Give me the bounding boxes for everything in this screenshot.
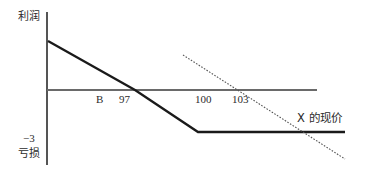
x-tick-label-b: B bbox=[96, 94, 103, 105]
chart-plot-area bbox=[0, 0, 367, 171]
y-tick-label-minus3: −3 bbox=[23, 133, 35, 144]
series-reference-dotted bbox=[183, 55, 345, 159]
chart-figure: 利润 −3 亏损 B 97 100 103 X 的现价 bbox=[0, 0, 367, 171]
y-axis-title-profit: 利润 bbox=[18, 11, 40, 22]
y-axis-title-loss: 亏损 bbox=[18, 148, 40, 159]
x-tick-label-97: 97 bbox=[119, 94, 130, 105]
x-axis-title-current-price: X 的现价 bbox=[297, 113, 342, 125]
x-tick-label-100: 100 bbox=[195, 94, 212, 105]
x-tick-label-103: 103 bbox=[232, 94, 249, 105]
